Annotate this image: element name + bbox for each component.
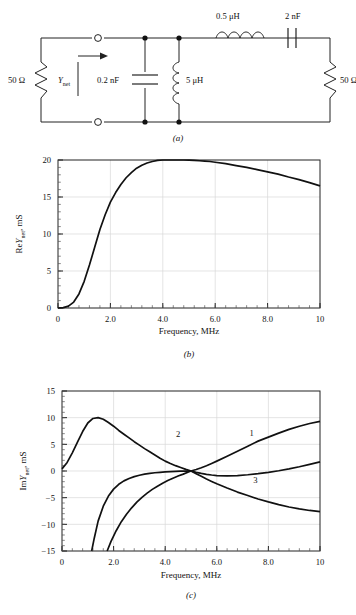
chart-c-tick-labels: 02.04.06.08.010−15−10−5051015 (42, 386, 325, 567)
shunt-capacitor-label: 0.2 nF (97, 75, 119, 85)
y-tick-label: 15 (46, 386, 55, 396)
caption-b: (b) (184, 349, 195, 359)
circuit-junction-dots (142, 35, 181, 124)
x-tick-label: 8.0 (263, 557, 274, 567)
chart-c-curve-1 (92, 421, 320, 551)
chart-b-gridlines (58, 160, 320, 308)
load-resistor-symbol (324, 62, 336, 98)
x-tick-label: 10 (316, 314, 325, 324)
chart-c: 02.04.06.08.010−15−10−5051015 123 Freque… (18, 386, 324, 600)
y-tick-label: 15 (42, 192, 51, 202)
shunt-capacitor-symbol (132, 75, 158, 84)
x-tick-label: 6.0 (210, 314, 221, 324)
y-tick-label: 5 (47, 266, 51, 276)
terminal-bottom-circle (95, 119, 102, 126)
chart-b-tick-labels: 02.04.06.08.01005101520 (42, 155, 324, 324)
series-capacitor-label: 2 nF (285, 11, 301, 21)
x-tick-label: 2.0 (105, 314, 116, 324)
chart-c-xlabel: Frequency, MHz (161, 570, 221, 580)
chart-b-xlabel: Frequency, MHz (159, 326, 219, 336)
x-tick-label: 0 (56, 314, 60, 324)
y-tick-label: 0 (47, 303, 51, 313)
x-tick-label: 2.0 (108, 557, 119, 567)
y-tick-label: 10 (42, 229, 51, 239)
series-inductor-symbol (216, 32, 264, 38)
y-tick-label: 10 (46, 413, 55, 423)
y-tick-label: 20 (42, 155, 51, 165)
ynet-arrowhead (100, 53, 108, 60)
curve-label-1: 1 (249, 428, 253, 438)
chart-c-curves (62, 418, 320, 551)
source-resistor-label: 50 Ω (8, 75, 25, 85)
terminal-top-circle (95, 35, 102, 42)
textbook-figure: 50 Ω 50 Ω Ynet 0.2 nF (0, 0, 356, 615)
x-tick-label: 4.0 (160, 557, 171, 567)
y-tick-label: −15 (42, 546, 55, 556)
chart-b-ylabel: ReYnet, mS (14, 215, 26, 254)
y-tick-label: 0 (51, 466, 55, 476)
x-tick-label: 6.0 (211, 557, 222, 567)
load-resistor-label: 50 Ω (340, 75, 356, 85)
x-tick-label: 10 (316, 557, 325, 567)
chart-c-curve-3 (107, 471, 320, 551)
x-tick-label: 0 (60, 557, 64, 567)
y-tick-label: −10 (42, 520, 55, 530)
chart-c-curve-2 (62, 418, 320, 476)
circuit-panel: 50 Ω 50 Ω Ynet 0.2 nF (8, 11, 356, 143)
chart-c-ylabel: ImYnet, mS (18, 452, 30, 491)
y-tick-label: 5 (51, 440, 55, 450)
caption-a: (a) (173, 133, 184, 143)
figure-svg: 50 Ω 50 Ω Ynet 0.2 nF (0, 0, 356, 615)
source-resistor-symbol (35, 62, 47, 98)
series-inductor-label: 0.5 μH (216, 11, 240, 21)
curve-label-3: 3 (253, 475, 257, 485)
shunt-inductor-label: 5 μH (186, 75, 203, 85)
ynet-label: Ynet (58, 75, 70, 87)
y-tick-label: −5 (46, 493, 55, 503)
x-tick-label: 4.0 (157, 314, 168, 324)
curve-label-2: 2 (176, 429, 180, 439)
caption-c: (c) (186, 590, 196, 600)
chart-b: 02.04.06.08.01005101520 Frequency, MHz R… (14, 155, 324, 359)
shunt-inductor-symbol (173, 62, 179, 104)
x-tick-label: 8.0 (262, 314, 273, 324)
